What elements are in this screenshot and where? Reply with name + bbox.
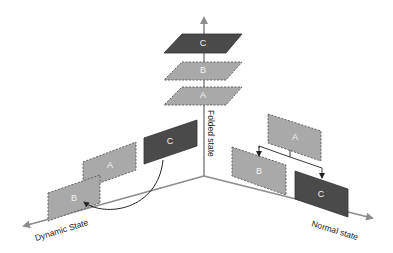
folded-layer-a-label: A bbox=[200, 90, 206, 100]
folded-layer-c: C bbox=[164, 34, 242, 53]
dynamic-layer-c-label: C bbox=[167, 136, 174, 146]
folded-layer-b: B bbox=[164, 62, 242, 80]
normal-layer-c-label: C bbox=[318, 189, 325, 199]
normal-layer-c: C bbox=[295, 171, 348, 217]
dynamic-layer-c: C bbox=[144, 120, 197, 164]
dynamic-layer-a-label: A bbox=[107, 160, 113, 170]
normal-layer-a-label: A bbox=[292, 132, 298, 142]
normal-group: A B C Normal state bbox=[232, 114, 360, 242]
folded-layer-a: A bbox=[164, 87, 242, 105]
dynamic-group: A B C Dynamic State bbox=[34, 120, 197, 243]
normal-layer-b-label: B bbox=[256, 166, 262, 176]
three-state-diagram: C B A Folded state A B C Dynamic State bbox=[0, 0, 393, 253]
dynamic-layer-b: B bbox=[48, 175, 100, 221]
normal-layer-a: A bbox=[268, 114, 321, 161]
folded-layer-c-label: C bbox=[200, 38, 207, 48]
folded-layer-b-label: B bbox=[200, 65, 206, 75]
right-axis-label: Normal state bbox=[310, 218, 359, 242]
vertical-axis-label: Folded state bbox=[206, 110, 216, 157]
dynamic-layer-b-label: B bbox=[71, 193, 77, 203]
